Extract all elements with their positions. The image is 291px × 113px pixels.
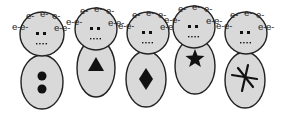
electron-label: e- (192, 2, 200, 12)
electron-label: e- (224, 21, 232, 31)
eye (97, 27, 100, 30)
mouth-dot (142, 42, 143, 43)
figure-5: e-e-e-e-e-e-e- (216, 8, 274, 108)
mouth-dot (194, 36, 195, 37)
electron-label: e- (146, 8, 154, 18)
mouth-dot (250, 42, 251, 43)
electron-label: e- (74, 17, 82, 27)
mouth-dot (191, 36, 192, 37)
eye (142, 31, 145, 34)
mouth-dot (240, 42, 241, 43)
electron-label: e- (52, 11, 60, 21)
dot-symbol (38, 72, 47, 81)
mouth-dot (39, 43, 40, 44)
mouth-dot (36, 43, 37, 44)
mouth-dot (90, 38, 91, 39)
mouth-dot (246, 42, 247, 43)
mouth-dot (198, 36, 199, 37)
electron-label: e- (106, 6, 114, 16)
electron-label: e- (20, 22, 28, 32)
eye (149, 31, 152, 34)
eye (43, 32, 46, 35)
dot-symbol (38, 85, 47, 94)
mouth-dot (100, 38, 101, 39)
mouth-dot (93, 38, 94, 39)
mouth-dot (145, 42, 146, 43)
mouth-dot (42, 43, 43, 44)
mouth-dot (46, 43, 47, 44)
diagram-canvas: e-e-e-e-e-e-e-e-e-e-e-e-e-e-e-e-e-e-e-e-… (0, 0, 291, 113)
electron-label: e- (26, 11, 34, 21)
body (21, 55, 63, 109)
electron-label: e- (126, 21, 134, 31)
mouth-dot (152, 42, 153, 43)
figure-1: e-e-e-e-e-e-e- (12, 9, 70, 109)
mouth-dot (188, 36, 189, 37)
eye (36, 32, 39, 35)
mouth-dot (96, 38, 97, 39)
electron-figures-diagram: e-e-e-e-e-e-e-e-e-e-e-e-e-e-e-e-e-e-e-e-… (0, 0, 291, 113)
electron-label: e- (94, 4, 102, 14)
electron-label: e- (172, 15, 180, 25)
electron-label: e- (266, 22, 274, 32)
eye (240, 31, 243, 34)
electron-label: e- (178, 4, 186, 14)
electron-label: e- (80, 6, 88, 16)
eye (247, 31, 250, 34)
mouth-dot (148, 42, 149, 43)
electron-label: e- (230, 10, 238, 20)
eye (188, 25, 191, 28)
figure-4: e-e-e-e-e-e-e- (164, 2, 222, 94)
electron-label: e- (40, 9, 48, 19)
eye (195, 25, 198, 28)
eye (90, 27, 93, 30)
mouth-dot (243, 42, 244, 43)
figure-2: e-e-e-e-e-e-e- (66, 4, 124, 97)
electron-label: e- (132, 10, 140, 20)
electron-label: e- (256, 10, 264, 20)
electron-label: e- (244, 8, 252, 18)
electron-label: e- (204, 4, 212, 14)
